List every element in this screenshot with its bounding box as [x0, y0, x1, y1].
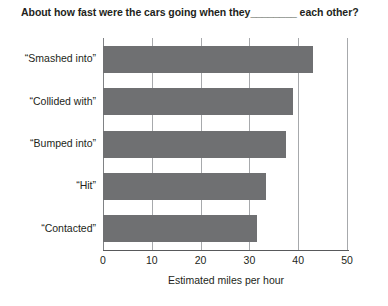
x-tick-label-20: 20: [186, 254, 216, 266]
category-label: “Collided with”: [0, 95, 96, 107]
category-label: “Hit”: [0, 179, 96, 191]
x-tick-label-0: 0: [88, 254, 118, 266]
x-tick-label-40: 40: [283, 254, 313, 266]
category-label: “Contacted”: [0, 222, 96, 234]
x-tick-label-50: 50: [332, 254, 362, 266]
x-tick-label-30: 30: [234, 254, 264, 266]
x-axis-title: Estimated miles per hour: [103, 274, 349, 286]
category-label: “Bumped into”: [0, 137, 96, 149]
chart-figure: About how fast were the cars going when …: [0, 0, 388, 306]
category-label: “Smashed into”: [0, 52, 96, 64]
x-tick-label-10: 10: [137, 254, 167, 266]
